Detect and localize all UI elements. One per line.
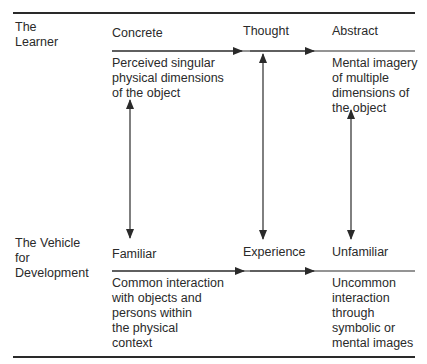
heading-thought: Thought (243, 24, 289, 39)
row-label-learner: The Learner (15, 20, 58, 50)
heading-familiar: Familiar (112, 247, 156, 262)
heading-concrete: Concrete (112, 26, 163, 41)
description-familiar: Common interaction with objects and pers… (112, 276, 224, 351)
heading-unfamiliar: Unfamiliar (332, 245, 388, 260)
heading-experience: Experience (243, 245, 306, 260)
description-abstract: Mental imagery of multiple dimensions of… (332, 56, 417, 116)
row-label-vehicle: The Vehicle for Development (15, 236, 89, 281)
description-concrete: Perceived singular physical dimensions o… (112, 56, 224, 101)
description-unfamiliar: Uncommon interaction through symbolic or… (332, 276, 413, 351)
heading-abstract: Abstract (332, 24, 378, 39)
